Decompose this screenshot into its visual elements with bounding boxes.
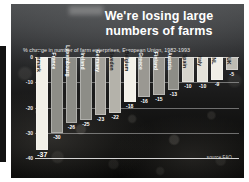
bar-chart-plot-area: 0-10-20-30-40Denmark-37France-30Luxembou…	[35, 57, 239, 158]
bar-country-label: Sweden	[109, 51, 115, 71]
bar-slot-greece[interactable]: Greece-16	[138, 57, 150, 158]
bar-slot-austria[interactable]: Austria-13	[168, 57, 180, 158]
bar-slot-uk[interactable]: UK-5	[226, 57, 238, 158]
bar-slot-nl[interactable]: NL-9	[211, 57, 223, 158]
bar-uk[interactable]: UK	[226, 57, 238, 70]
bar-value-label: -9	[215, 81, 219, 87]
bar-value-label: -16	[141, 98, 148, 104]
bar-slot-luxembourg[interactable]: Luxembourg-26	[66, 57, 78, 158]
bar-country-label: France	[51, 53, 57, 70]
bar-slot-france[interactable]: France-30	[51, 57, 63, 158]
slide-title-line-1: We're losing large	[83, 9, 235, 24]
bar-italy[interactable]: Italy	[197, 57, 209, 82]
y-axis-tick-label: 0	[30, 54, 33, 60]
bar-nl[interactable]: NL	[211, 57, 223, 80]
bar-country-label: Austria	[167, 52, 173, 70]
bar-finland[interactable]: Finland	[153, 57, 165, 95]
bar-value-label: -26	[68, 124, 75, 130]
source-note: source FAO	[207, 155, 232, 160]
bar-luxembourg[interactable]: Luxembourg	[66, 57, 78, 123]
bar-greece[interactable]: Greece	[138, 57, 150, 97]
bar-country-label: Belgium	[124, 51, 130, 71]
bar-country-label: Greece	[138, 52, 144, 70]
bar-country-label: Luxembourg	[65, 45, 71, 76]
bar-country-label: Spain	[182, 54, 188, 68]
bar-ireland[interactable]: Ireland	[80, 57, 92, 120]
bar-slot-germany[interactable]: Germany-23	[95, 57, 107, 158]
bar-austria[interactable]: Austria	[168, 57, 180, 90]
bar-value-label: -25	[82, 121, 89, 127]
bar-value-label: -23	[97, 116, 104, 122]
bar-slot-belgium[interactable]: Belgium-18	[124, 57, 136, 158]
y-axis-tick-label: -20	[26, 105, 33, 111]
bar-slot-spain[interactable]: Spain-10	[182, 57, 194, 158]
y-axis-tick-label: -40	[26, 155, 33, 161]
bar-slot-ireland[interactable]: Ireland-25	[80, 57, 92, 158]
bar-country-label: Denmark	[36, 50, 42, 72]
presentation-slide: We're losing large numbers of farms % ch…	[11, 4, 244, 178]
bar-value-label: -22	[112, 114, 119, 120]
bar-value-label: -13	[170, 91, 177, 97]
bar-denmark[interactable]: Denmark	[36, 57, 48, 150]
bar-slot-finland[interactable]: Finland-15	[153, 57, 165, 158]
bar-germany[interactable]: Germany	[95, 57, 107, 115]
bar-spain[interactable]: Spain	[182, 57, 194, 82]
slide-title: We're losing large numbers of farms	[83, 9, 235, 39]
bar-slot-denmark[interactable]: Denmark-37	[36, 57, 48, 158]
bar-country-label: NL	[211, 58, 217, 65]
bar-country-label: Italy	[197, 56, 203, 67]
bar-france[interactable]: France	[51, 57, 63, 133]
bar-slot-italy[interactable]: Italy-10	[197, 57, 209, 158]
bar-country-label: UK	[226, 57, 232, 64]
bar-value-label: -5	[229, 71, 233, 77]
slide-title-line-2: numbers of farms	[83, 24, 235, 39]
y-axis-tick-label: -30	[26, 130, 33, 136]
bar-slot-sweden[interactable]: Sweden-22	[109, 57, 121, 158]
bar-belgium[interactable]: Belgium	[124, 57, 136, 102]
bar-country-label: Ireland	[80, 52, 86, 69]
y-axis-tick-label: -10	[26, 79, 33, 85]
bar-country-label: Germany	[95, 50, 101, 72]
bar-sweden[interactable]: Sweden	[109, 57, 121, 113]
chart-subtitle: % change in number of farm enterprises, …	[23, 47, 190, 53]
bar-country-label: Finland	[153, 52, 159, 70]
bar-value-label: -10	[199, 83, 206, 89]
bar-value-label: -15	[155, 96, 162, 102]
bar-value-label: -30	[53, 134, 60, 140]
bar-value-label: -37	[37, 151, 47, 158]
bar-value-label: -18	[126, 103, 133, 109]
bar-value-label: -10	[184, 83, 191, 89]
slide-root: We're losing large numbers of farms % ch…	[0, 0, 249, 182]
left-edge-strip	[0, 46, 6, 162]
